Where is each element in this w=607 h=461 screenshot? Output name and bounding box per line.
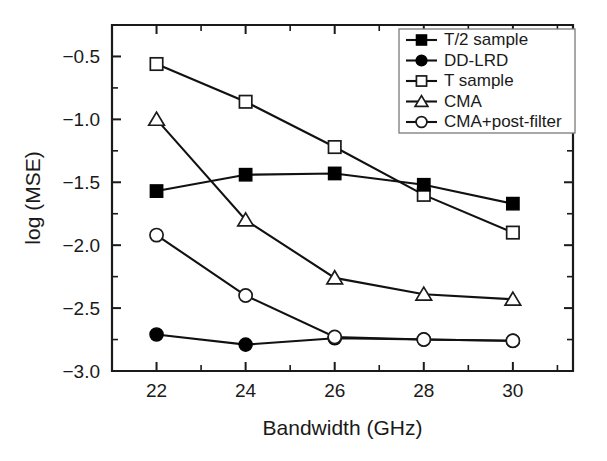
marker-open-circle xyxy=(417,333,430,346)
marker-open-triangle xyxy=(327,271,343,284)
marker-open-circle xyxy=(328,330,341,343)
legend-label: CMA xyxy=(444,92,482,111)
x-tick-label: 26 xyxy=(324,380,345,401)
x-tick-label: 28 xyxy=(413,380,434,401)
y-tick-label: −2.5 xyxy=(62,298,100,319)
legend-label: DD-LRD xyxy=(444,51,508,70)
y-tick-label: −2.0 xyxy=(62,235,100,256)
legend: T/2 sampleDD-LRDT sampleCMACMA+post-filt… xyxy=(399,29,575,133)
x-tick-label: 22 xyxy=(146,380,167,401)
marker-filled-circle xyxy=(239,338,252,351)
y-tick-label: −1.5 xyxy=(62,172,100,193)
marker-filled-square xyxy=(239,169,251,181)
marker-open-square xyxy=(239,96,251,108)
y-tick-label: −1.0 xyxy=(62,109,100,130)
chart-figure: −0.5−1.0−1.5−2.0−2.5−3.02224262830 Bandw… xyxy=(0,0,607,461)
marker-open-circle xyxy=(506,334,519,347)
marker-open-triangle xyxy=(149,112,165,125)
marker-filled-circle xyxy=(150,328,163,341)
marker-filled-circle xyxy=(416,55,427,66)
x-axis-title: Bandwidth (GHz) xyxy=(263,416,423,439)
marker-open-circle xyxy=(239,289,252,302)
marker-filled-square xyxy=(507,197,519,209)
x-tick-label: 24 xyxy=(235,380,257,401)
y-tick-label: −0.5 xyxy=(62,46,100,67)
marker-open-circle xyxy=(416,117,427,128)
marker-filled-square xyxy=(150,185,162,197)
marker-filled-square xyxy=(329,167,341,179)
chart-canvas: −0.5−1.0−1.5−2.0−2.5−3.02224262830 Bandw… xyxy=(0,0,607,461)
legend-label: CMA+post-filter xyxy=(444,112,562,131)
marker-open-circle xyxy=(150,229,163,242)
marker-filled-square xyxy=(416,35,426,45)
marker-open-square xyxy=(507,226,519,238)
series-polyline xyxy=(157,235,513,341)
marker-open-square xyxy=(416,76,426,86)
legend-label: T/2 sample xyxy=(444,30,528,49)
marker-open-square xyxy=(150,58,162,70)
x-tick-label: 30 xyxy=(502,380,523,401)
y-tick-label: −3.0 xyxy=(62,361,100,382)
y-axis-title: log (MSE) xyxy=(21,151,44,244)
legend-label: T sample xyxy=(444,71,514,90)
marker-open-square xyxy=(329,141,341,153)
marker-filled-square xyxy=(418,179,430,191)
series-cma-post-filter xyxy=(150,229,520,348)
